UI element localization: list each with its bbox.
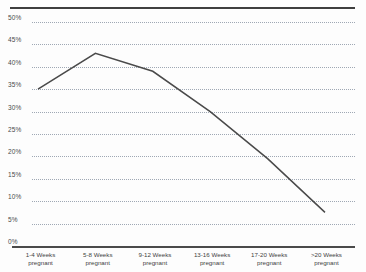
line-series-svg	[0, 0, 366, 272]
plot-area: 50%45%40%35%30%25%20%15%10%5%0% 1-4 Week…	[0, 0, 366, 272]
x-axis-tick-label: >20 Weekspregnant	[298, 250, 355, 272]
x-axis-tick-labels: 1-4 Weekspregnant5-8 Weekspregnant9-12 W…	[12, 250, 355, 272]
chart-figure: 50%45%40%35%30%25%20%15%10%5%0% 1-4 Week…	[0, 0, 366, 272]
x-axis-line	[12, 246, 355, 248]
x-axis-tick-label: 5-8 Weekspregnant	[69, 250, 126, 272]
x-axis-tick-label: 9-12 Weekspregnant	[126, 250, 183, 272]
line-series-path	[38, 53, 325, 212]
x-axis-tick-label: 1-4 Weekspregnant	[12, 250, 69, 272]
x-axis-tick-label: 17-20 Weekspregnant	[241, 250, 298, 272]
x-axis-tick-label: 13-16 Weekspregnant	[184, 250, 241, 272]
